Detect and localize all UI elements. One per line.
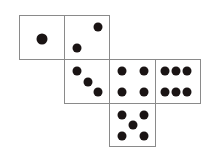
- pip-dot-icon: [37, 34, 48, 45]
- die-face-two: [64, 15, 110, 60]
- pip-dot-icon: [140, 67, 149, 76]
- die-face-four: [109, 59, 156, 104]
- pip-dot-icon: [129, 121, 138, 130]
- pip-dot-icon: [118, 67, 127, 76]
- pip-dot-icon: [118, 132, 127, 141]
- die-face-five: [109, 103, 156, 147]
- pip-dot-icon: [73, 67, 82, 76]
- die-face-one: [19, 15, 65, 60]
- die-face-six: [155, 59, 201, 104]
- pip-dot-icon: [140, 132, 149, 141]
- pip-dot-icon: [118, 111, 127, 120]
- pip-dot-icon: [94, 88, 103, 97]
- pip-dot-icon: [73, 44, 82, 53]
- pip-dot-icon: [161, 67, 170, 76]
- die-face-three: [64, 59, 110, 104]
- pip-dot-icon: [118, 88, 127, 97]
- pip-dot-icon: [84, 78, 93, 87]
- pip-dot-icon: [161, 88, 170, 97]
- pip-dot-icon: [94, 23, 103, 32]
- pip-dot-icon: [140, 111, 149, 120]
- pip-dot-icon: [172, 88, 181, 97]
- pip-dot-icon: [183, 88, 192, 97]
- pip-dot-icon: [140, 88, 149, 97]
- pip-dot-icon: [183, 67, 192, 76]
- pip-dot-icon: [172, 67, 181, 76]
